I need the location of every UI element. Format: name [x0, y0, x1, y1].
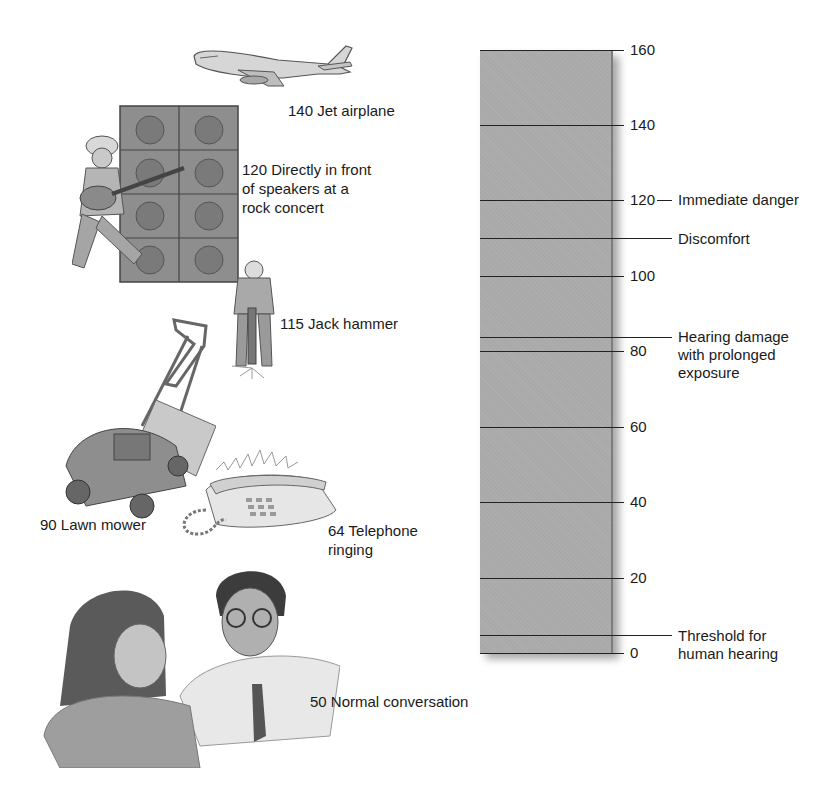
ringing-telephone-illustration: [176, 440, 340, 540]
tick-line-120: [480, 200, 624, 201]
tick-line-40: [480, 502, 624, 503]
tick-label-160: 160: [630, 42, 655, 58]
tick-line-60: [480, 427, 624, 428]
tick-label-60: 60: [630, 419, 647, 435]
annotation-hearing-damage: Hearing damage with prolonged exposure: [678, 328, 808, 382]
tick-label-0: 0: [630, 645, 638, 661]
annotation-discomfort: Discomfort: [678, 230, 750, 248]
tick-line-20: [480, 578, 624, 579]
immediate-danger-connector: [657, 200, 672, 201]
tick-label-120: 120: [630, 192, 655, 208]
jet-airplane-illustration: [188, 42, 358, 92]
source-label-jet-airplane: 140 Jet airplane: [288, 101, 395, 120]
annotation-threshold-human-hearing: Threshold for human hearing: [678, 627, 788, 663]
threshold-line-hearing-threshold: [480, 635, 672, 636]
tick-label-140: 140: [630, 117, 655, 133]
tick-label-20: 20: [630, 570, 647, 586]
jack-hammer-worker-illustration: [218, 258, 286, 380]
tick-label-100: 100: [630, 268, 655, 284]
source-label-lawn-mower: 90 Lawn mower: [40, 515, 146, 534]
source-label-jack-hammer: 115 Jack hammer: [280, 314, 398, 333]
tick-label-40: 40: [630, 494, 647, 510]
tick-line-80: [480, 351, 624, 352]
tick-label-80: 80: [630, 343, 647, 359]
threshold-line-discomfort: [480, 238, 672, 239]
tick-line-140: [480, 125, 624, 126]
threshold-line-hearing-damage: [480, 337, 672, 338]
two-people-talking-illustration: [40, 556, 340, 768]
source-label-normal-conversation: 50 Normal conversation: [310, 692, 468, 711]
rock-concert-speakers-illustration: [72, 104, 242, 286]
source-label-rock-concert: 120 Directly in front of speakers at a r…: [242, 160, 371, 217]
tick-line-160: [480, 50, 624, 51]
tick-line-0: [480, 653, 624, 654]
tick-line-100: [480, 276, 624, 277]
annotation-immediate-danger: Immediate danger: [678, 191, 799, 209]
source-label-telephone: 64 Telephone ringing: [328, 521, 418, 559]
